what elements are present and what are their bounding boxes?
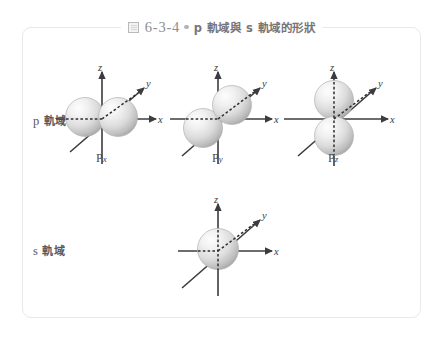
figure-page: 6-3-4 p 軌域與 s 軌域的形狀 p 軌域 s 軌域 xyxy=(0,0,443,356)
orbital-sublabel-px-index: x xyxy=(103,154,107,164)
orbital-sublabel-py: Py xyxy=(212,151,223,166)
s-orbital-sphere xyxy=(198,229,239,270)
orbital-sublabel-px-main: P xyxy=(96,151,103,165)
caption-number: 6-3-4 xyxy=(145,19,180,36)
figure-box-icon xyxy=(128,22,139,33)
caption-text: p 軌域與 s 軌域的形狀 xyxy=(194,19,316,35)
orbital-sublabel-py-index: y xyxy=(219,154,223,164)
dot-separator-icon xyxy=(184,25,189,30)
axis-label-x: x xyxy=(273,114,279,125)
axis-label-x: x xyxy=(389,114,395,125)
orbital-sublabel-pz: Pz xyxy=(328,151,338,166)
axis-label-z: z xyxy=(329,62,334,73)
orbital-diagram-px: z y x xyxy=(52,62,170,174)
orbital-diagram-s: z y x xyxy=(168,194,286,306)
axis-label-z: z xyxy=(213,194,218,205)
orbital-sublabel-pz-index: z xyxy=(335,154,339,164)
orbital-svg-pz: z y x xyxy=(284,62,402,174)
orbital-sublabel-px: Px xyxy=(96,151,107,166)
figure-caption: 6-3-4 p 軌域與 s 軌域的形狀 xyxy=(0,16,443,38)
lobe-positive-x xyxy=(99,98,138,137)
row-label-s-latin: s xyxy=(33,244,38,258)
orbital-svg-px: z y x xyxy=(52,62,170,174)
row-label-p-latin: p xyxy=(33,114,39,128)
row-label-s-orbital: s 軌域 xyxy=(33,242,66,259)
axis-label-z: z xyxy=(213,62,218,73)
axis-label-y: y xyxy=(261,78,267,89)
lobe-positive-z xyxy=(315,81,354,120)
axis-label-x: x xyxy=(273,246,279,257)
axis-label-y: y xyxy=(377,78,383,89)
orbital-svg-s: z y x xyxy=(168,194,286,306)
orbital-sublabel-py-main: P xyxy=(212,151,219,165)
axis-label-z: z xyxy=(97,62,102,73)
axis-label-y: y xyxy=(261,210,267,221)
orbital-diagram-pz: z y x xyxy=(284,62,402,174)
orbital-sublabel-pz-main: P xyxy=(328,151,335,165)
axis-label-y: y xyxy=(145,78,151,89)
orbital-svg-py: z y x xyxy=(168,62,286,174)
orbital-diagram-py: z y x xyxy=(168,62,286,174)
row-label-s-cjk: 軌域 xyxy=(42,245,65,258)
caption-inner: 6-3-4 p 軌域與 s 軌域的形狀 xyxy=(121,16,323,38)
axis-label-x: x xyxy=(157,114,163,125)
